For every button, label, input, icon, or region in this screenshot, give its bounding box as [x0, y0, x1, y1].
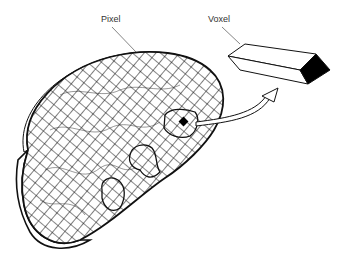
voxel-label: Voxel [208, 14, 230, 24]
voxel-leader-line [222, 27, 240, 44]
pixel-label: Pixel [101, 14, 121, 24]
voxel-prism [228, 44, 330, 84]
pixel-voxel-diagram [0, 0, 346, 259]
pixel-leader-line [112, 27, 136, 52]
cross-section-slice [0, 0, 346, 259]
